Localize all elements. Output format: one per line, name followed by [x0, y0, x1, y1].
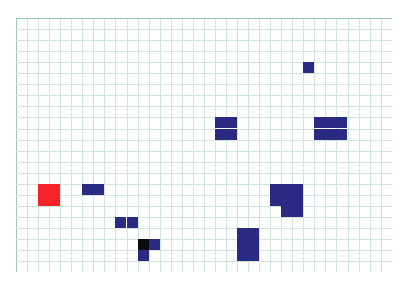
grid-line-horizontal	[16, 239, 392, 240]
grid-line-vertical	[336, 18, 337, 272]
block-pentomino[interactable]	[270, 184, 281, 195]
grid-line-horizontal	[16, 250, 392, 251]
block-square[interactable]	[215, 117, 226, 128]
grid-line-vertical	[204, 18, 205, 272]
block-rectangle[interactable]	[325, 129, 336, 140]
grid-line-vertical	[270, 18, 271, 272]
grid-line-vertical	[16, 18, 17, 272]
block-target[interactable]	[38, 184, 49, 195]
block-tall[interactable]	[248, 250, 259, 261]
grid-line-vertical	[325, 18, 326, 272]
grid-line-vertical	[149, 18, 150, 272]
block-domino[interactable]	[115, 217, 126, 228]
grid-line-vertical	[381, 18, 382, 272]
grid-line-horizontal	[16, 261, 392, 262]
block-square[interactable]	[215, 129, 226, 140]
block-pentomino[interactable]	[281, 195, 292, 206]
grid-line-horizontal	[16, 84, 392, 85]
grid-line-horizontal	[16, 18, 392, 19]
block-pentomino[interactable]	[281, 206, 292, 217]
grid-line-horizontal	[16, 162, 392, 163]
block-domino[interactable]	[127, 217, 138, 228]
grid-line-vertical	[49, 18, 50, 272]
grid-line-horizontal	[16, 62, 392, 63]
grid-line-vertical	[104, 18, 105, 272]
grid-line-vertical	[182, 18, 183, 272]
grid-line-vertical	[93, 18, 94, 272]
block-pentomino[interactable]	[292, 195, 303, 206]
grid-line-horizontal	[16, 217, 392, 218]
grid-line-horizontal	[16, 184, 392, 185]
grid-line-vertical	[38, 18, 39, 272]
block-square[interactable]	[226, 129, 237, 140]
grid-line-horizontal	[16, 151, 392, 152]
grid-line-vertical	[115, 18, 116, 272]
board-canvas	[0, 0, 410, 294]
grid-line-vertical	[193, 18, 194, 272]
block-target[interactable]	[38, 195, 49, 206]
grid-line-horizontal	[16, 140, 392, 141]
grid-line-horizontal	[16, 206, 392, 207]
grid-line-vertical	[348, 18, 349, 272]
block-domino[interactable]	[93, 184, 104, 195]
grid-line-vertical	[127, 18, 128, 272]
block-target[interactable]	[49, 195, 60, 206]
block-tall[interactable]	[248, 239, 259, 250]
block-pentomino[interactable]	[292, 184, 303, 195]
grid-line-vertical	[27, 18, 28, 272]
block-corner[interactable]	[149, 239, 160, 250]
grid-line-vertical	[370, 18, 371, 272]
block-rectangle[interactable]	[336, 129, 347, 140]
block-rectangle[interactable]	[336, 117, 347, 128]
grid-line-horizontal	[16, 95, 392, 96]
grid-line-vertical	[171, 18, 172, 272]
block-tall[interactable]	[237, 228, 248, 239]
grid-line-vertical	[60, 18, 61, 272]
block-rectangle[interactable]	[314, 129, 325, 140]
block-pentomino[interactable]	[281, 184, 292, 195]
block-pentomino[interactable]	[292, 206, 303, 217]
grid-line-vertical	[215, 18, 216, 272]
block-square[interactable]	[226, 117, 237, 128]
block-target[interactable]	[49, 184, 60, 195]
grid-line-vertical	[226, 18, 227, 272]
grid-line-horizontal	[16, 228, 392, 229]
grid-line-vertical	[359, 18, 360, 272]
grid-area[interactable]	[16, 18, 392, 272]
grid-line-vertical	[71, 18, 72, 272]
grid-line-horizontal	[16, 195, 392, 196]
grid-line-horizontal	[16, 173, 392, 174]
block-corner[interactable]	[138, 250, 149, 261]
grid-line-vertical	[160, 18, 161, 272]
block-single[interactable]	[303, 62, 314, 73]
grid-line-horizontal	[16, 29, 392, 30]
grid-line-horizontal	[16, 40, 392, 41]
grid-line-vertical	[82, 18, 83, 272]
block-tall[interactable]	[248, 228, 259, 239]
block-rectangle[interactable]	[325, 117, 336, 128]
grid-line-vertical	[259, 18, 260, 272]
block-domino[interactable]	[82, 184, 93, 195]
block-blocked[interactable]	[138, 239, 149, 250]
grid-line-vertical	[303, 18, 304, 272]
grid-line-horizontal	[16, 106, 392, 107]
block-tall[interactable]	[237, 250, 248, 261]
block-tall[interactable]	[237, 239, 248, 250]
grid-line-horizontal	[16, 51, 392, 52]
grid-line-vertical	[314, 18, 315, 272]
grid-line-horizontal	[16, 73, 392, 74]
block-rectangle[interactable]	[314, 117, 325, 128]
grid-line-vertical	[138, 18, 139, 272]
block-pentomino[interactable]	[270, 195, 281, 206]
grid-line-vertical	[281, 18, 282, 272]
grid-line-vertical	[292, 18, 293, 272]
